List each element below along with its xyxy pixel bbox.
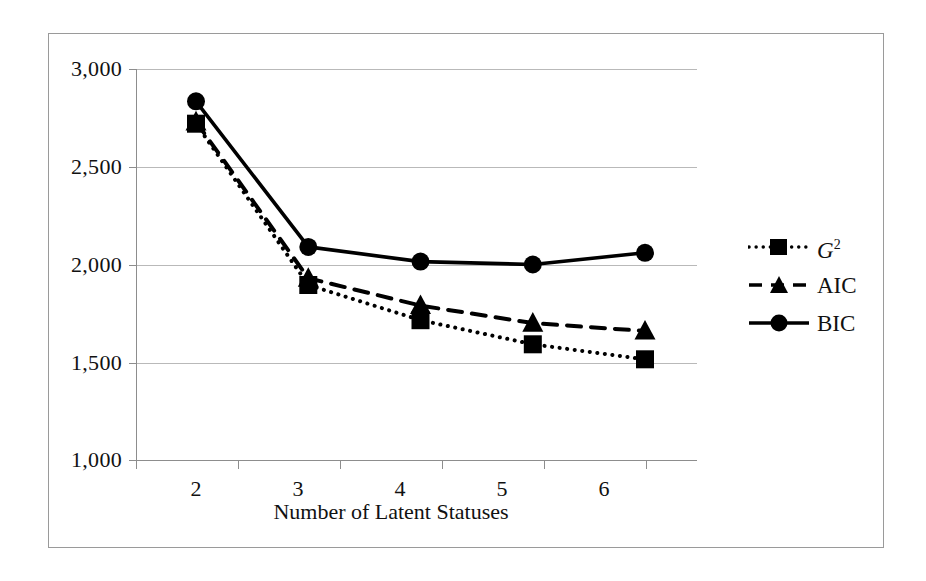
x-tick-label-4: 4	[370, 478, 430, 500]
gridline-3000	[136, 69, 697, 70]
y-tick-label-2500: 2,500	[48, 156, 122, 178]
data-point-AIC-4	[410, 295, 431, 315]
legend-label-bic: BIC	[817, 312, 855, 335]
gridline-2500	[136, 167, 697, 168]
y-tick-1500	[129, 363, 137, 364]
gridline-1500	[136, 363, 697, 364]
y-tick-2500	[129, 167, 137, 168]
data-point-AIC-2	[186, 111, 207, 131]
data-point-BIC-3	[299, 238, 317, 256]
data-point-BIC-4	[412, 253, 430, 271]
y-tick-label-3000: 3,000	[48, 58, 122, 80]
x-tick-label-3: 3	[268, 478, 328, 500]
data-point-G2-2	[187, 115, 205, 133]
x-axis-line	[136, 460, 697, 461]
y-tick-3000	[129, 69, 137, 70]
chart-legend: G2 AIC BIC	[748, 228, 878, 342]
data-point-G2-5	[524, 335, 542, 353]
data-point-AIC-6	[635, 320, 656, 340]
gridline-2000	[136, 265, 697, 266]
legend-item-g2: G2	[748, 228, 878, 266]
legend-item-bic: BIC	[748, 304, 878, 342]
x-tick-0	[136, 460, 137, 469]
line-chart: 3,000 2,500 2,000 1,500 1,000 2 3 4 5 6 …	[0, 0, 926, 581]
y-tick-label-1500: 1,500	[48, 352, 122, 374]
legend-swatch-dashed-triangle	[748, 273, 810, 297]
data-point-G2-4	[412, 311, 430, 329]
x-tick-4	[544, 460, 545, 469]
x-axis-title: Number of Latent Statuses	[136, 500, 646, 524]
data-point-BIC-6	[636, 244, 654, 262]
data-point-BIC-2	[187, 92, 205, 110]
data-point-G2-3	[299, 276, 317, 294]
y-tick-2000	[129, 265, 137, 266]
y-tick-label-1000: 1,000	[48, 449, 122, 471]
y-tick-label-2000: 2,000	[48, 254, 122, 276]
legend-item-aic: AIC	[748, 266, 878, 304]
legend-swatch-solid-circle	[748, 311, 810, 335]
series-line-G2	[196, 124, 645, 360]
data-point-G2-6	[636, 350, 654, 368]
x-tick-label-2: 2	[166, 478, 226, 500]
legend-label-aic: AIC	[817, 274, 857, 297]
x-tick-2	[340, 460, 341, 469]
x-tick-label-6: 6	[574, 478, 634, 500]
x-tick-1	[238, 460, 239, 469]
series-line-BIC	[196, 101, 645, 264]
x-tick-5	[646, 460, 647, 469]
x-tick-3	[442, 460, 443, 469]
x-tick-label-5: 5	[472, 478, 532, 500]
legend-label-g2: G2	[817, 233, 841, 262]
data-point-AIC-3	[298, 267, 319, 287]
data-point-AIC-5	[522, 312, 543, 332]
series-line-AIC	[196, 122, 645, 331]
legend-swatch-dotted-square	[748, 235, 810, 259]
